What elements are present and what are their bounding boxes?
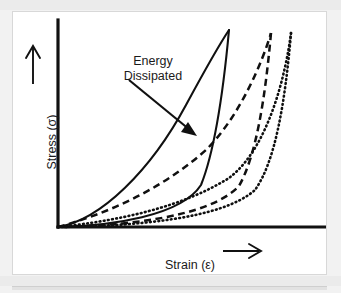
x-axis-label: Strain (ε) <box>165 258 215 272</box>
figure-root: Energy Dissipated Strain (ε) Stress (σ) <box>0 0 341 293</box>
y-axis-label: Stress (σ) <box>45 115 59 170</box>
page-texture-band <box>0 276 341 286</box>
energy-dissipated-label-line1: Energy <box>116 54 190 69</box>
page-texture-band <box>0 0 341 10</box>
y-axis-label-wrapper: Stress (σ) <box>42 97 62 187</box>
energy-dissipated-arrow-shaft <box>129 80 190 130</box>
page-bottom-rule <box>12 286 327 290</box>
energy-dissipated-label-line2: Dissipated <box>108 69 198 84</box>
figure-panel: Energy Dissipated Strain (ε) Stress (σ) <box>12 11 327 275</box>
